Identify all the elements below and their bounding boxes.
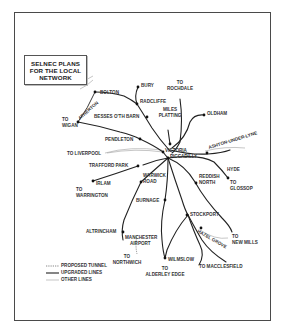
label-bury: BURY: [141, 83, 154, 88]
label-stockport: STOCKPORT: [190, 212, 219, 217]
label-hyde: HYDE: [227, 167, 240, 172]
label-to-macclesfield: TO MACCLESFIELD: [199, 264, 243, 269]
station-dot-altrincham: [122, 231, 125, 234]
legend-label: OTHER LINES: [61, 277, 92, 282]
label-bolton: BOLTON: [100, 90, 120, 95]
label-reddish-north-1: REDDISH: [199, 174, 220, 179]
legend-label: PROPOSED TUNNEL: [61, 263, 107, 268]
station-dot-stockport: [186, 214, 189, 217]
label-to-wigan-1: TO: [62, 117, 69, 122]
station-dot-besses: [146, 116, 149, 119]
station-dot-oldham: [203, 114, 206, 117]
label-to-rochdale-1: TO: [177, 80, 184, 85]
station-dot-bolton: [94, 91, 97, 94]
label-reddish-north-2: NORTH: [199, 180, 216, 185]
label-warwick-road-2: ROAD: [143, 179, 157, 184]
legend-item-proposed-tunnel: PROPOSED TUNNEL: [46, 262, 107, 269]
label-to-alderley-2: ALDERLEY EDGE: [146, 272, 185, 277]
label-to-glossop-1: TO: [230, 180, 237, 185]
label-piccadilly: PICCADILLY: [170, 154, 197, 159]
solid-line-icon: [46, 271, 59, 275]
label-to-new-mills-1: TO: [232, 234, 239, 239]
legend-label: UPGRADED LINES: [61, 270, 102, 275]
label-to-alderley-1: TO: [162, 266, 169, 271]
title-line-3: NETWORK: [39, 74, 72, 81]
label-besses: BESSES O'TH BARN: [94, 114, 140, 119]
label-oldham: OLDHAM: [207, 111, 227, 116]
station-dot-radcliffe: [136, 103, 139, 106]
station-dot-pendleton: [139, 138, 142, 141]
label-to-warrington-1: TO: [76, 187, 83, 192]
label-altrincham: ALTRINCHAM: [86, 229, 116, 234]
station-dot-ashton: [206, 152, 209, 155]
legend-item-other-lines: OTHER LINES: [46, 276, 107, 283]
label-warwick-road-1: WARWICK: [143, 173, 167, 178]
station-dot-miles-platting: [169, 143, 172, 146]
label-to-wigan-2: WIGAN: [62, 123, 79, 128]
title-line-1: SELNEC PLANS: [31, 60, 80, 67]
label-to-glossop-2: GLOSSOP: [230, 186, 253, 191]
label-to-northwich-2: NORTHWICH: [113, 260, 142, 265]
station-dot-victoria: [162, 151, 165, 154]
station-dot-wilmslow: [164, 257, 167, 260]
rail-network-map: BOLTON BURY TO ROCHDALE RADCLIFFE ATHERT…: [0, 0, 281, 334]
map-legend: PROPOSED TUNNEL UPGRADED LINES OTHER LIN…: [46, 262, 107, 283]
label-radcliffe: RADCLIFFE: [140, 99, 166, 104]
station-dot-burnage: [164, 199, 167, 202]
station-dot-irlam: [92, 180, 95, 183]
label-to-northwich-1: TO: [124, 254, 131, 259]
label-ashton: ASHTON-UNDER-LYNE: [208, 130, 258, 150]
label-manchester-airport-2: AIRPORT: [130, 241, 151, 246]
station-dot-reddish-north: [195, 182, 198, 185]
label-manchester-airport-1: MANCHESTER: [125, 235, 158, 240]
label-victoria: VICTORIA: [165, 148, 188, 153]
label-to-new-mills-2: NEW MILLS: [232, 240, 258, 245]
label-irlam: IRLAM: [96, 181, 111, 186]
label-burnage: BURNAGE: [136, 198, 159, 203]
label-miles-platting-1: MILES: [163, 107, 177, 112]
station-dot-warwick-road: [140, 181, 143, 184]
dotted-line-icon: [46, 264, 59, 268]
label-trafford-park: TRAFFORD PARK: [89, 163, 129, 168]
label-miles-platting-2: PLATTING: [159, 113, 182, 118]
station-dot-bury: [137, 86, 140, 89]
station-dot-piccadilly: [167, 157, 170, 160]
label-to-rochdale-2: ROCHDALE: [167, 86, 193, 91]
title-line-2: FOR THE LOCAL: [30, 67, 81, 74]
label-to-warrington-2: WARRINGTON: [76, 193, 108, 198]
station-dot-hyde: [227, 177, 230, 180]
legend-item-upgraded-lines: UPGRADED LINES: [46, 269, 107, 276]
label-pendleton: PENDLETON: [105, 137, 134, 142]
thin-line-icon: [46, 278, 59, 282]
label-wilmslow: WILMSLOW: [168, 257, 195, 262]
label-to-liverpool: TO LIVERPOOL: [67, 151, 101, 156]
map-title-box: SELNEC PLANS FOR THE LOCAL NETWORK: [24, 55, 87, 85]
station-dot-trafford-park: [137, 165, 140, 168]
